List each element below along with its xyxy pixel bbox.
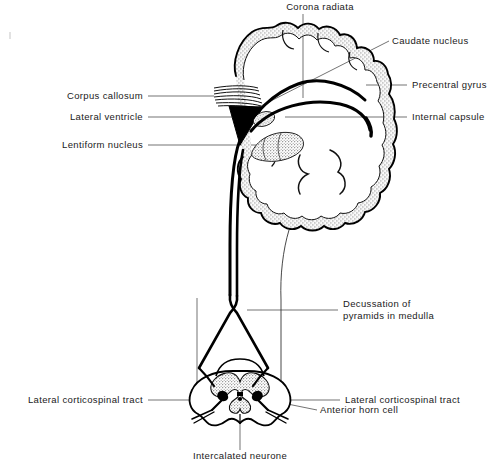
label-decussation-line1: Decussation of xyxy=(343,298,411,310)
label-internal-capsule: Internal capsule xyxy=(412,111,485,123)
label-lentiform-nucleus: Lentiform nucleus xyxy=(0,139,143,151)
temporal-fibre xyxy=(281,230,289,400)
label-decussation-line2: pyramids in medulla xyxy=(343,310,434,322)
label-precentral-gyrus: Precentral gyrus xyxy=(412,79,487,91)
scan-speck xyxy=(9,32,11,39)
label-intercalated-neurone: Intercalated neurone xyxy=(178,450,302,462)
label-lateral-ventricle: Lateral ventricle xyxy=(0,111,143,123)
central-canal xyxy=(237,392,243,396)
label-anterior-horn-cell: Anterior horn cell xyxy=(320,404,398,416)
label-corpus-callosum: Corpus callosum xyxy=(0,90,143,102)
label-lateral-corticospinal-tract-left: Lateral corticospinal tract xyxy=(0,394,143,406)
spinal-cord-section xyxy=(190,359,291,425)
label-corona-radiata: Corona radiata xyxy=(258,1,382,13)
intercalated-neurone-shape xyxy=(238,397,242,401)
label-caudate-nucleus: Caudate nucleus xyxy=(392,35,469,47)
medulla-decussation xyxy=(199,295,268,368)
